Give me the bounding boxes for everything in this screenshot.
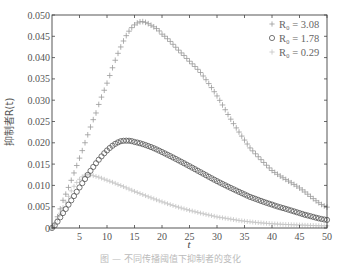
y-tick-label: 0.030 [28, 95, 51, 106]
x-tick-label: 35 [240, 231, 250, 242]
y-tick-label: 0.010 [28, 180, 51, 191]
y-tick-label: 0.040 [28, 52, 51, 63]
x-tick-label: 45 [295, 231, 305, 242]
legend-item: R₀ = 1.78 [269, 33, 319, 44]
legend: R₀ = 3.08R₀ = 1.78R₀ = 0.29 [269, 19, 319, 58]
figure-caption: 图 — 不同传播阈值下抑制者的变化 [0, 252, 341, 265]
y-tick-label: 0.045 [28, 31, 51, 42]
y-tick-label: 0.005 [28, 201, 51, 212]
y-tick-label: 0.020 [28, 137, 51, 148]
y-tick-label: 0.035 [28, 73, 51, 84]
legend-item: R₀ = 0.29 [269, 47, 319, 58]
x-tick-label: 10 [102, 231, 112, 242]
legend-label: R₀ = 3.08 [279, 19, 319, 30]
x-tick-label: 5 [77, 231, 82, 242]
y-tick-label: 0.050 [28, 10, 51, 21]
legend-item: R₀ = 3.08 [269, 19, 319, 30]
legend-label: R₀ = 1.78 [279, 33, 319, 44]
x-tick-label: 50 [322, 231, 332, 242]
legend-label: R₀ = 0.29 [279, 47, 319, 58]
y-tick-label: 0.025 [28, 116, 51, 127]
y-tick-label: 0 [45, 223, 50, 234]
series-r0-1-78 [49, 138, 329, 231]
y-tick-label: 0.015 [28, 159, 51, 170]
x-tick-label: 15 [130, 231, 140, 242]
x-tick-label: 30 [212, 231, 222, 242]
x-tick-label: 40 [267, 231, 277, 242]
y-axis-label: 抑制者R(t) [3, 98, 15, 147]
x-tick-label: 20 [157, 231, 167, 242]
